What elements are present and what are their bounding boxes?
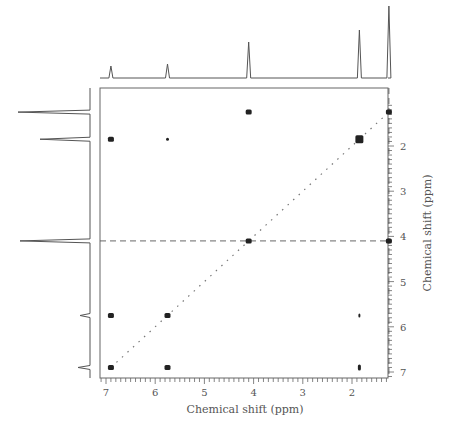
x-tick-label: 7 [103,387,109,398]
cross-peak [108,137,114,142]
x-tick-label: 5 [201,387,207,398]
cross-peak [165,313,171,318]
cross-peak [355,135,363,143]
x-axis-label: Chemical shift (ppm) [186,403,303,416]
x-tick-label: 3 [300,387,306,398]
x-tick-label: 2 [349,387,355,398]
y-axis-label: Chemical shift (ppm) [421,174,434,291]
cross-peak [358,364,361,370]
left-projection [18,88,90,378]
cross-peak [108,313,114,318]
cross-peak [358,314,360,318]
y-tick-label: 2 [400,141,406,152]
guide-lines [100,88,389,378]
y-tick-label: 5 [400,277,406,288]
y-tick-label: 7 [400,367,406,378]
cross-peak [386,238,392,243]
y-tick-label: 6 [400,322,406,333]
cross-peak [108,365,114,370]
cross-peak [246,110,252,115]
axis-ticks: 765432234567 [101,105,406,398]
x-tick-label: 4 [250,387,256,398]
y-tick-label: 3 [400,186,406,197]
cross-peak [165,365,171,370]
top-projection [100,6,391,78]
projection-spectra [18,6,391,378]
y-tick-label: 4 [400,231,406,242]
cross-peak [246,238,252,243]
plot-frame [100,88,388,378]
cross-peak [386,110,392,115]
nmr-2d-plot: 765432234567 Chemical shift (ppm) Chemic… [0,0,449,436]
cross-peak [166,138,169,141]
x-tick-label: 6 [152,387,158,398]
